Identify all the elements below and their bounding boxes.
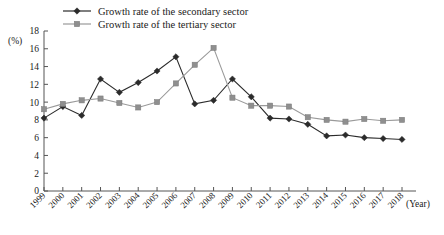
- x-axis-tick-label: 2000: [46, 190, 66, 210]
- growth-rate-line-chart: Growth rate of the secondary sectorGrowt…: [0, 0, 444, 235]
- data-point-secondary: [342, 132, 348, 138]
- y-axis-tick-label: 8: [34, 115, 39, 125]
- data-point-tertiary: [41, 107, 46, 112]
- data-point-tertiary: [381, 118, 386, 123]
- data-point-tertiary: [305, 115, 310, 120]
- y-axis-tick-label: 6: [34, 133, 39, 143]
- data-point-secondary: [305, 121, 311, 127]
- x-axis-tick-label: 2011: [254, 190, 274, 210]
- data-point-tertiary: [268, 103, 273, 108]
- chart-legend: Growth rate of the secondary sectorGrowt…: [63, 6, 249, 30]
- data-point-tertiary: [136, 105, 141, 110]
- legend-label-0: Growth rate of the secondary sector: [98, 6, 249, 17]
- legend-marker-square-icon: [74, 21, 79, 26]
- y-axis-unit-label: (%): [8, 36, 22, 47]
- data-point-secondary: [380, 135, 386, 141]
- data-point-secondary: [79, 112, 85, 118]
- data-point-tertiary: [79, 98, 84, 103]
- y-axis-tick-label: 4: [34, 151, 39, 161]
- data-point-tertiary: [154, 100, 159, 105]
- y-axis-tick-label: 10: [30, 98, 40, 108]
- x-axis-tick-label: 2012: [273, 190, 293, 210]
- data-point-tertiary: [98, 96, 103, 101]
- data-point-tertiary: [324, 117, 329, 122]
- x-axis-tick-label: 2005: [141, 190, 161, 210]
- x-axis-tick-label: 2010: [235, 190, 255, 210]
- series-layer: [41, 45, 405, 142]
- x-axis-tick-label: 2007: [178, 190, 198, 210]
- data-point-secondary: [361, 135, 367, 141]
- chart-canvas: Growth rate of the secondary sectorGrowt…: [0, 0, 444, 235]
- data-point-tertiary: [173, 81, 178, 86]
- data-point-tertiary: [117, 100, 122, 105]
- x-axis-tick-label: 2014: [310, 190, 330, 210]
- x-axis-tick-label: 2008: [197, 190, 217, 210]
- data-point-tertiary: [362, 116, 367, 121]
- data-point-secondary: [324, 133, 330, 139]
- x-axis-tick-label: 2016: [348, 190, 368, 210]
- x-axis-tick-label: 2015: [329, 190, 349, 210]
- data-point-secondary: [399, 136, 405, 142]
- y-axis-tick-label: 18: [30, 26, 40, 36]
- x-axis-tick-label: 2004: [122, 190, 142, 210]
- data-point-tertiary: [230, 95, 235, 100]
- x-axis-tick-label: 2018: [386, 190, 406, 210]
- x-axis: 1999200020012002200320042005200620072008…: [28, 187, 416, 210]
- x-axis-tick-label: 2013: [291, 190, 311, 210]
- data-point-tertiary: [211, 45, 216, 50]
- data-point-tertiary: [192, 62, 197, 67]
- data-point-tertiary: [343, 119, 348, 124]
- y-axis-tick-label: 14: [30, 62, 40, 72]
- data-point-secondary: [286, 116, 292, 122]
- x-axis-tick-label: 2003: [103, 190, 123, 210]
- x-axis-tick-label: 2001: [65, 190, 85, 210]
- y-axis-tick-label: 2: [34, 169, 39, 179]
- x-axis-unit-label: (Year): [406, 199, 430, 210]
- data-point-secondary: [192, 101, 198, 107]
- y-axis-tick-label: 16: [30, 44, 40, 54]
- legend-marker-diamond-icon: [74, 8, 80, 14]
- x-axis-tick-label: 2006: [160, 190, 180, 210]
- data-point-tertiary: [286, 104, 291, 109]
- y-axis-tick-label: 12: [30, 80, 40, 90]
- data-point-tertiary: [399, 117, 404, 122]
- data-point-secondary: [135, 79, 141, 85]
- x-axis-tick-label: 2017: [367, 190, 387, 210]
- legend-label-1: Growth rate of the tertiary sector: [98, 19, 236, 30]
- x-axis-tick-label: 2002: [84, 190, 104, 210]
- data-point-tertiary: [60, 101, 65, 106]
- data-point-tertiary: [249, 103, 254, 108]
- x-axis-tick-label: 1999: [28, 190, 48, 210]
- x-axis-tick-label: 2009: [216, 190, 236, 210]
